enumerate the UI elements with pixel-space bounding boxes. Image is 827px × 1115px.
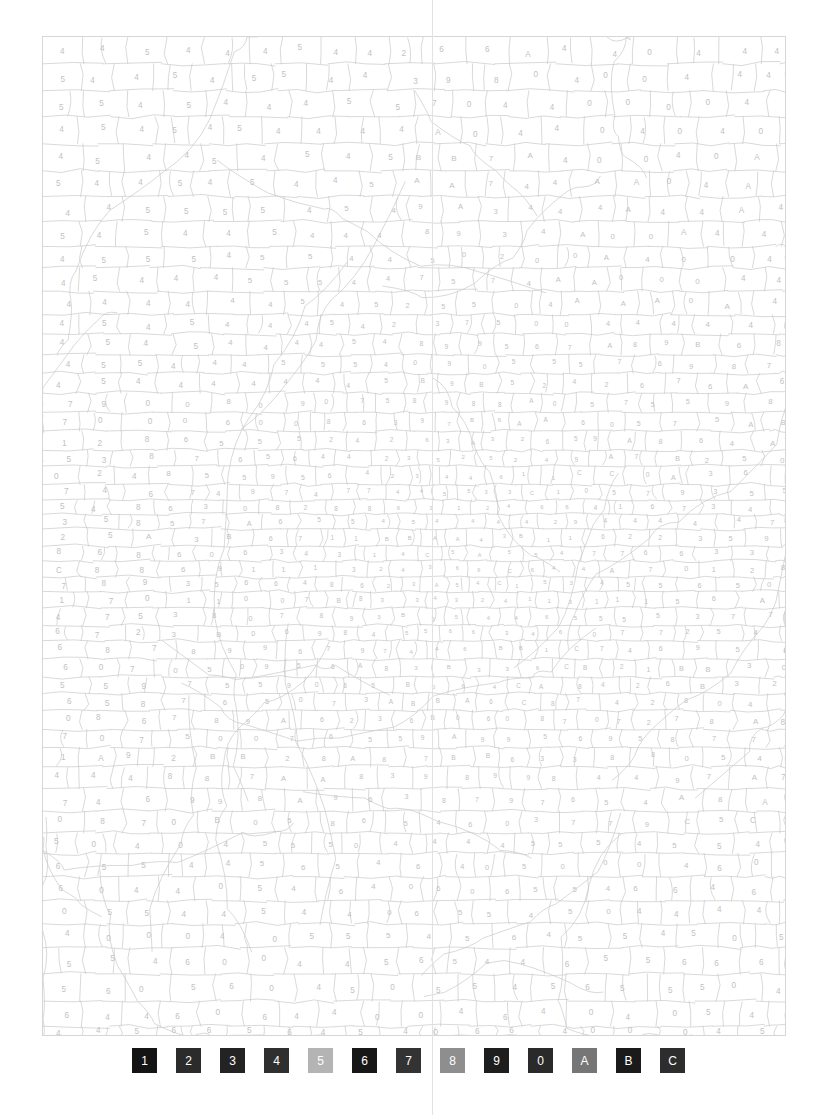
cell-symbol: 5 bbox=[309, 932, 314, 941]
color-swatch-8[interactable]: 8 bbox=[440, 1048, 465, 1073]
cell-symbol: 7 bbox=[707, 772, 711, 781]
puzzle-cell-map[interactable]: 445444544266A440444544545544398040044455… bbox=[43, 37, 786, 1036]
cell-symbol: 9 bbox=[481, 736, 485, 743]
cell-symbol: 7 bbox=[621, 629, 625, 636]
cell-symbol: 5 bbox=[258, 884, 263, 893]
cell-symbol: 4 bbox=[757, 906, 762, 915]
cell-symbol: B bbox=[679, 664, 684, 673]
cell-symbol: 5 bbox=[672, 841, 677, 850]
cell-symbol: 5 bbox=[508, 549, 511, 555]
color-swatch-B[interactable]: B bbox=[616, 1048, 641, 1073]
cell-symbol: 3 bbox=[394, 419, 398, 426]
cell-symbol: 2 bbox=[462, 454, 466, 460]
cell-symbol: 4 bbox=[171, 362, 176, 371]
cell-symbol: 0 bbox=[218, 734, 223, 743]
cell-symbol: 6 bbox=[425, 436, 429, 443]
cell-symbol: 2 bbox=[303, 504, 307, 511]
cell-symbol: 0 bbox=[172, 818, 177, 827]
color-swatch-9[interactable]: 9 bbox=[484, 1048, 509, 1073]
cell-symbol: 4 bbox=[737, 70, 742, 79]
cell-symbol: 2 bbox=[658, 534, 662, 541]
cell-symbol: A bbox=[634, 178, 640, 187]
cell-symbol: 6 bbox=[329, 733, 333, 741]
cell-symbol: 7 bbox=[346, 487, 350, 494]
cell-symbol: 9 bbox=[444, 343, 448, 350]
cell-symbol: 5 bbox=[651, 400, 655, 409]
cell-symbol: 8 bbox=[330, 581, 334, 588]
cell-symbol: 4 bbox=[553, 178, 558, 187]
color-swatch-A[interactable]: A bbox=[572, 1048, 597, 1073]
cell-symbol: 4 bbox=[316, 127, 321, 136]
cell-symbol: 0 bbox=[467, 100, 472, 109]
color-swatch-0[interactable]: 0 bbox=[528, 1048, 553, 1073]
cell-symbol: 8 bbox=[136, 551, 141, 560]
cell-symbol: 5 bbox=[603, 954, 608, 963]
cell-symbol: 5 bbox=[194, 342, 199, 351]
cell-symbol: 5 bbox=[248, 276, 253, 285]
cell-symbol: 1 bbox=[61, 753, 66, 762]
cell-symbol: 5 bbox=[675, 598, 679, 606]
cell-symbol: 0 bbox=[647, 48, 652, 57]
cell-symbol: 1 bbox=[644, 598, 648, 605]
cell-symbol: 4 bbox=[756, 840, 761, 849]
cell-symbol: 0 bbox=[281, 597, 285, 604]
cell-symbol: 4 bbox=[393, 839, 397, 848]
cell-symbol: 4 bbox=[716, 1027, 721, 1036]
cell-symbol: 7 bbox=[367, 487, 371, 494]
color-swatch-5[interactable]: 5 bbox=[308, 1048, 333, 1073]
cell-symbol: 4 bbox=[66, 209, 71, 218]
color-swatch-4[interactable]: 4 bbox=[264, 1048, 289, 1073]
cell-symbol: 9 bbox=[457, 229, 461, 238]
cell-symbol: 0 bbox=[222, 958, 227, 967]
cell-symbol: 4 bbox=[562, 1027, 567, 1036]
cell-symbol: 6 bbox=[360, 582, 364, 589]
cell-symbol: 7 bbox=[608, 819, 612, 828]
cell-symbol: 4 bbox=[720, 127, 725, 136]
color-swatch-1[interactable]: 1 bbox=[132, 1048, 157, 1073]
cell-symbol: 5 bbox=[134, 1027, 139, 1036]
cell-symbol: 7 bbox=[770, 518, 774, 527]
cell-symbol: B bbox=[470, 416, 474, 423]
cell-symbol: A bbox=[525, 50, 531, 59]
color-swatch-3[interactable]: 3 bbox=[220, 1048, 245, 1073]
cell-symbol: 7 bbox=[298, 535, 302, 542]
color-swatch-C[interactable]: C bbox=[660, 1048, 685, 1073]
cell-symbol: 4 bbox=[349, 254, 354, 263]
cell-symbol: 8 bbox=[191, 647, 195, 656]
cell-symbol: 8 bbox=[442, 797, 446, 804]
cell-symbol: 8 bbox=[718, 795, 723, 804]
cell-symbol: 4 bbox=[305, 319, 309, 328]
cell-symbol: 0 bbox=[666, 103, 671, 112]
cell-symbol: 5 bbox=[300, 297, 304, 306]
cell-symbol: 5 bbox=[173, 71, 178, 80]
cell-symbol: 4 bbox=[525, 519, 529, 525]
cell-symbol: 7 bbox=[360, 397, 364, 404]
cell-symbol: 3 bbox=[390, 772, 394, 779]
color-swatch-2[interactable]: 2 bbox=[176, 1048, 201, 1073]
cell-symbol: 2 bbox=[647, 718, 651, 727]
cell-symbol: 7 bbox=[677, 376, 681, 385]
cell-symbol: 8 bbox=[768, 397, 773, 406]
cell-symbol: 6 bbox=[67, 697, 72, 706]
cell-symbol: C bbox=[508, 568, 512, 574]
cell-symbol: 7 bbox=[139, 736, 144, 745]
cell-symbol: 3 bbox=[568, 598, 572, 605]
color-swatch-7[interactable]: 7 bbox=[396, 1048, 421, 1073]
cell-symbol: 7 bbox=[646, 490, 650, 497]
cell-symbol: 5 bbox=[101, 377, 106, 386]
cell-symbol: 9 bbox=[318, 630, 322, 637]
cell-symbol: 6 bbox=[243, 548, 247, 557]
cell-symbol: 9 bbox=[574, 518, 578, 525]
cell-symbol: 5 bbox=[207, 665, 212, 674]
color-swatch-6[interactable]: 6 bbox=[352, 1048, 377, 1073]
cell-symbol: 4 bbox=[749, 321, 754, 330]
cell-symbol: 4 bbox=[531, 631, 535, 637]
cell-symbol: 5 bbox=[317, 516, 321, 523]
cell-symbol: 4 bbox=[102, 486, 107, 495]
cell-symbol: 5 bbox=[552, 358, 556, 365]
cell-symbol: 3 bbox=[477, 667, 481, 673]
cell-symbol: 9 bbox=[664, 338, 668, 347]
puzzle-canvas[interactable]: 445444544266A440444544545544398040044455… bbox=[42, 36, 786, 1036]
cell-symbol: 4 bbox=[96, 798, 101, 807]
cell-symbol: 3 bbox=[505, 630, 509, 636]
